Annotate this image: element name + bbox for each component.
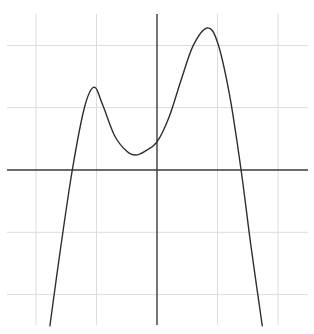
- axes: [7, 14, 308, 325]
- function-plot: [0, 0, 314, 334]
- function-curve: [50, 28, 262, 326]
